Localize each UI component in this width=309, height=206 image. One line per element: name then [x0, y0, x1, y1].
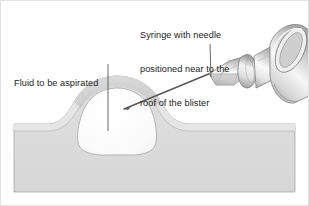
label-syringe-line-1: Syringe with needle	[140, 30, 229, 41]
syringe-barrel	[269, 23, 309, 103]
label-syringe: Syringe with needle positioned near to t…	[140, 7, 229, 132]
label-fluid: Fluid to be aspirated	[14, 55, 98, 112]
illustration-figure: Syringe with needle positioned near to t…	[0, 0, 309, 206]
label-fluid-line-1: Fluid to be aspirated	[14, 78, 98, 89]
label-syringe-line-3: roof of the blister	[140, 98, 229, 109]
label-syringe-line-2: positioned near to the	[140, 64, 229, 75]
